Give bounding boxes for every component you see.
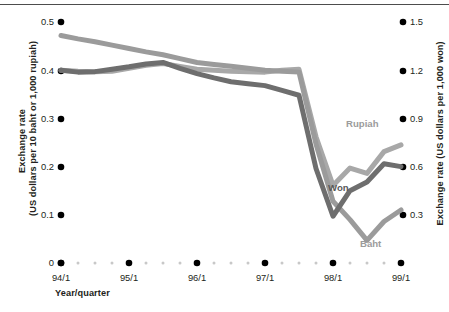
x-axis-tick-label: 97/1 (250, 272, 280, 283)
y-axis-right-tick-dot (400, 68, 407, 75)
y-axis-right-tick-label: 0.6 (410, 161, 438, 172)
series-line-baht (61, 35, 401, 240)
y-axis-right-tick-label: 1.2 (410, 65, 438, 76)
y-axis-left-tick-label: 0.1 (26, 209, 54, 220)
x-axis-minor-tick-dot (94, 262, 97, 265)
y-axis-left-title-line1: Exchange rate (17, 66, 28, 216)
x-axis-minor-tick-dot (349, 262, 352, 265)
x-axis-major-tick-dot (194, 260, 201, 267)
x-axis-major-tick-dot (262, 260, 269, 267)
x-axis-minor-tick-dot (315, 262, 318, 265)
y-axis-left-tick-dot (58, 19, 65, 26)
x-axis-minor-tick-dot (247, 262, 250, 265)
x-axis-major-tick-dot (330, 260, 337, 267)
y-axis-left-tick-dot (58, 116, 65, 123)
y-axis-left-title-line2: (US dollars per 10 baht or 1,000 rupiah) (28, 66, 39, 216)
y-axis-left-tick-dot (58, 260, 65, 267)
x-axis-tick-label: 99/1 (386, 272, 416, 283)
y-axis-left-tick-label: 0.2 (26, 161, 54, 172)
series-line-won (61, 62, 401, 216)
y-axis-right-tick-dot (400, 116, 407, 123)
series-lines-group (61, 35, 401, 240)
y-axis-right-tick-label: 0.3 (410, 209, 438, 220)
x-axis-minor-tick-dot (179, 262, 182, 265)
line-chart-plot (0, 0, 449, 312)
series-annotation-won: Won (328, 182, 349, 193)
y-axis-right-title: Exchange rate (US dollars per 1,000 won) (435, 56, 446, 226)
x-axis-title: Year/quarter (55, 288, 110, 299)
y-axis-right-tick-label: 1.5 (410, 16, 438, 27)
x-axis-tick-label: 94/1 (46, 272, 76, 283)
y-axis-right-tick-dots (400, 19, 407, 219)
series-annotation-baht: Baht (360, 238, 381, 249)
x-axis-tick-label: 96/1 (182, 272, 212, 283)
x-axis-minor-tick-dot (162, 262, 165, 265)
x-axis-major-tick-dot (126, 260, 133, 267)
y-axis-right-tick-label: 0.9 (410, 113, 438, 124)
series-annotation-rupiah: Rupiah (346, 118, 379, 129)
x-axis-minor-tick-dot (111, 262, 114, 265)
x-axis-minor-tick-dot (298, 262, 301, 265)
y-axis-right-tick-dot (400, 19, 407, 26)
x-axis-minor-tick-dot (77, 262, 80, 265)
x-axis-minor-tick-dot (366, 262, 369, 265)
y-axis-left-title: Exchange rate (US dollars per 10 baht or… (17, 66, 39, 216)
x-axis-tick-label: 95/1 (114, 272, 144, 283)
y-axis-left-tick-label: 0 (26, 257, 54, 268)
x-axis-minor-tick-dot (383, 262, 386, 265)
x-axis-minor-tick-dot (213, 262, 216, 265)
x-axis-tick-label: 98/1 (318, 272, 348, 283)
y-axis-left-tick-label: 0.3 (26, 113, 54, 124)
chart-container: Exchange rate (US dollars per 10 baht or… (0, 0, 449, 312)
x-axis-minor-tick-dot (145, 262, 148, 265)
x-axis-minor-tick-dots (77, 262, 386, 265)
x-axis-major-tick-dot (398, 260, 405, 267)
y-axis-left-tick-dots (58, 19, 65, 267)
y-axis-left-tick-dot (58, 212, 65, 219)
x-axis-minor-tick-dot (281, 262, 284, 265)
y-axis-left-tick-label: 0.5 (26, 16, 54, 27)
x-axis-minor-tick-dot (230, 262, 233, 265)
y-axis-left-tick-dot (58, 164, 65, 171)
y-axis-left-tick-label: 0.4 (26, 65, 54, 76)
